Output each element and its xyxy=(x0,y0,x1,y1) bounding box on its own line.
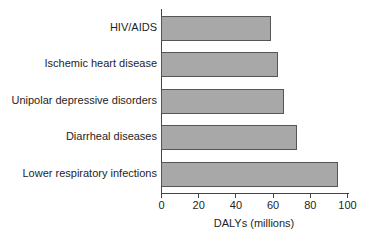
bar-diarrheal-diseases xyxy=(161,125,297,150)
x-tick-mark xyxy=(198,193,199,198)
x-tick-mark xyxy=(235,193,236,198)
category-label-lower-respiratory-infections: Lower respiratory infections xyxy=(22,167,157,180)
x-tick-mark xyxy=(310,193,311,198)
category-label-hiv-aids: HIV/AIDS xyxy=(110,21,157,34)
x-tick-label: 100 xyxy=(338,199,356,211)
x-tick-mark xyxy=(347,193,348,198)
x-tick-mark xyxy=(273,193,274,198)
category-label-ischemic-heart-disease: Ischemic heart disease xyxy=(45,57,158,70)
x-tick-label: 40 xyxy=(230,199,242,211)
bar-lower-respiratory-infections xyxy=(161,162,338,187)
bar-hiv-aids xyxy=(161,16,271,41)
x-axis-label: DALYs (millions) xyxy=(214,217,294,229)
x-tick-label: 20 xyxy=(193,199,205,211)
bar-ischemic-heart-disease xyxy=(161,52,278,77)
x-axis-line xyxy=(161,193,349,194)
category-label-unipolar-depressive-disorders: Unipolar depressive disorders xyxy=(11,94,157,107)
bar-chart: HIV/AIDS Ischemic heart disease Unipolar… xyxy=(0,0,372,241)
x-tick-label: 80 xyxy=(304,199,316,211)
category-label-diarrheal-diseases: Diarrheal diseases xyxy=(66,130,157,143)
x-tick-label: 0 xyxy=(158,199,164,211)
bar-unipolar-depressive-disorders xyxy=(161,89,284,114)
x-tick-mark xyxy=(161,193,162,198)
x-tick-label: 60 xyxy=(267,199,279,211)
